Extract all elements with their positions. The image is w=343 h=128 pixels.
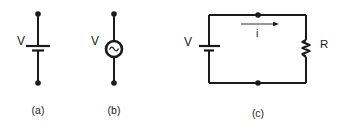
junction-dot-bottom bbox=[255, 80, 261, 86]
panel-b bbox=[106, 11, 122, 86]
label-resistor-r: R bbox=[320, 38, 328, 50]
panel-c bbox=[199, 12, 310, 86]
caption-b: (b) bbox=[108, 104, 121, 116]
terminal-dot-top bbox=[111, 11, 117, 17]
caption-c: (c) bbox=[252, 107, 264, 119]
caption-a: (a) bbox=[32, 104, 45, 116]
sine-wave-icon bbox=[110, 47, 119, 51]
label-v-a: V bbox=[17, 34, 25, 48]
terminal-dot-top bbox=[35, 11, 41, 17]
current-arrow-head-icon bbox=[273, 22, 279, 26]
terminal-dot-bottom bbox=[111, 80, 117, 86]
label-v-c: V bbox=[184, 35, 192, 49]
circuit-diagrams: V (a) V (b) V i R (c) bbox=[0, 0, 343, 128]
junction-dot-top bbox=[255, 12, 261, 18]
terminal-dot-bottom bbox=[35, 80, 41, 86]
panel-a bbox=[26, 11, 50, 86]
label-v-b: V bbox=[91, 34, 99, 48]
label-current-i: i bbox=[256, 27, 258, 39]
resistor-zigzag bbox=[303, 40, 310, 57]
